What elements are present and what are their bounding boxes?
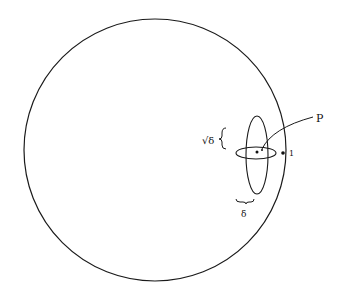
horizontal-brace (236, 199, 254, 204)
unit-circle (24, 19, 286, 281)
vertical-ellipse (246, 116, 268, 194)
vertical-brace (219, 128, 226, 149)
label-one: 1 (289, 149, 294, 158)
label-sqrt-delta: √δ (202, 135, 214, 146)
label-p: P (316, 112, 324, 125)
diagram-canvas: P 1 √δ δ (0, 0, 343, 298)
boundary-point-dot (281, 151, 285, 155)
center-dot (256, 151, 259, 154)
p-leader-line (262, 117, 313, 149)
p-dot (261, 149, 263, 151)
label-delta: δ (241, 209, 246, 219)
